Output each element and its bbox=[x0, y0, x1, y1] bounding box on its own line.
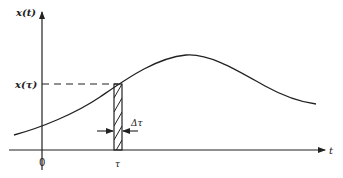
delta-tau-label: Δτ bbox=[130, 118, 143, 128]
sample-value-label: x(τ) bbox=[14, 79, 37, 90]
y-axis-label: x(t) bbox=[15, 7, 36, 18]
signal-diagram: x(t) x(τ) 0 τ Δτ t bbox=[0, 0, 343, 178]
origin-label: 0 bbox=[39, 157, 45, 168]
t-axis-label: t bbox=[329, 145, 334, 156]
hatched-strip bbox=[114, 84, 122, 154]
tau-label: τ bbox=[115, 159, 121, 169]
signal-curve bbox=[14, 55, 316, 135]
